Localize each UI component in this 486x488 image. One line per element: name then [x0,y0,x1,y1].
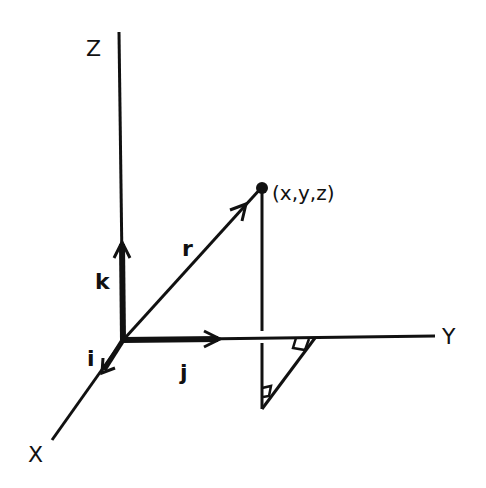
position-vector-label: r [182,236,193,261]
unit-vector-k-label: k [95,269,111,294]
projection-diagonal [262,338,315,409]
unit-vector-i-label: i [87,346,95,371]
x-axis-label: X [28,442,43,467]
point-label: (x,y,z) [272,181,335,205]
y-axis-label: Y [441,324,456,349]
unit-vector-j-label: j [179,360,188,385]
right-angle-mark-y [293,338,309,350]
z-axis-label: Z [86,36,101,61]
coordinate-diagram: Z Y X k j i r (x,y,z) [0,0,486,488]
unit-vector-k [122,244,123,340]
position-vector-r [125,187,262,338]
unit-vector-j [123,339,218,340]
unit-vector-i [104,340,123,370]
